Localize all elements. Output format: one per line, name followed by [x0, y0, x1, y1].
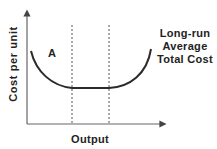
curve-legend: Long-run Average Total Cost	[157, 27, 213, 66]
x-axis-label: Output	[71, 133, 109, 145]
y-axis-label: Cost per unit	[7, 26, 19, 102]
chart-plot-area	[0, 0, 217, 149]
legend-line-1: Long-run	[157, 27, 213, 40]
legend-line-2: Average	[157, 40, 213, 53]
legend-line-3: Total Cost	[157, 53, 213, 66]
chart-canvas: Cost per unit Output A Long-run Average …	[0, 0, 217, 149]
point-a-label: A	[48, 47, 56, 59]
